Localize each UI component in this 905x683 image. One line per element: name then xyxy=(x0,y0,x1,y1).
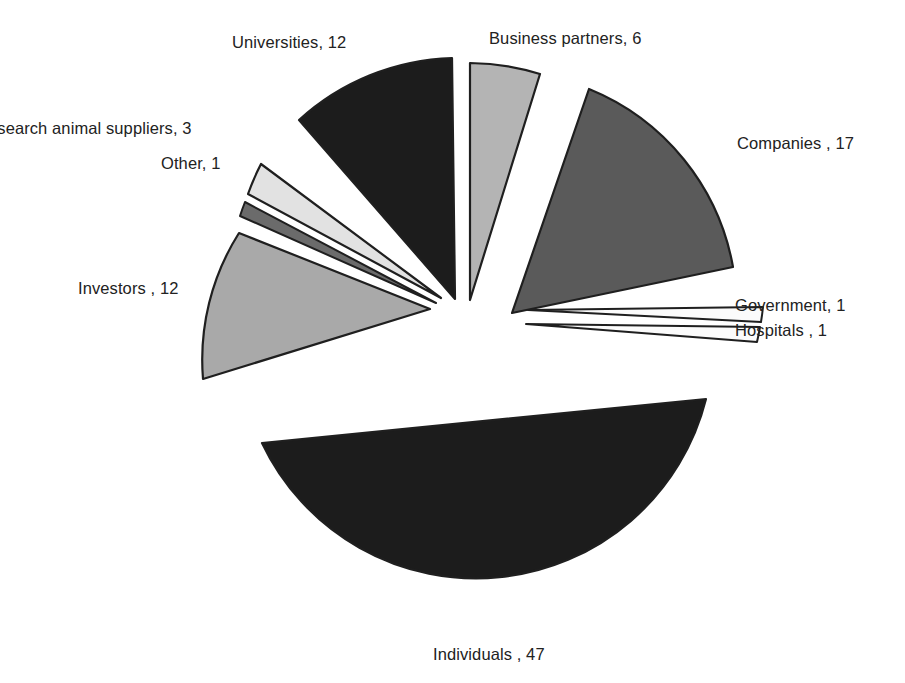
pie-slice-hospitals[interactable] xyxy=(526,324,760,342)
pie-label-business-partners: Business partners, 6 xyxy=(489,29,641,48)
pie-label-universities: Universities, 12 xyxy=(232,33,346,52)
pie-label-individuals: Individuals , 47 xyxy=(433,645,545,664)
pie-label-government: Government, 1 xyxy=(735,296,845,315)
pie-label-investors: Investors , 12 xyxy=(78,279,178,298)
pie-slice-investors[interactable] xyxy=(202,233,430,379)
pie-slice-companies[interactable] xyxy=(512,89,733,313)
pie-slice-individuals[interactable] xyxy=(262,399,706,578)
pie-chart: Universities, 12 Business partners, 6 Co… xyxy=(0,0,905,683)
pie-slice-government[interactable] xyxy=(528,307,763,322)
pie-label-hospitals: Hospitals , 1 xyxy=(735,321,827,340)
pie-label-research-animal-suppliers: esearch animal suppliers, 3 xyxy=(0,119,192,138)
pie-label-companies: Companies , 17 xyxy=(737,134,854,153)
pie-chart-canvas xyxy=(0,0,905,683)
pie-label-other: Other, 1 xyxy=(161,154,221,173)
